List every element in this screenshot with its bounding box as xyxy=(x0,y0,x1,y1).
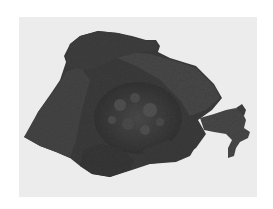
specimen-appendage xyxy=(200,108,250,158)
specimen-photo xyxy=(0,0,273,209)
photo-frame xyxy=(0,0,273,209)
